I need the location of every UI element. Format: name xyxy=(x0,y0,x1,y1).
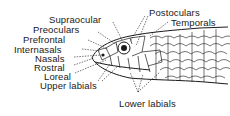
label-lower-labials: Lower labials xyxy=(119,99,176,109)
snake-head-diagram: Supraocular Preoculars Prefrontal Intern… xyxy=(0,0,230,116)
label-temporals: Temporals xyxy=(171,18,216,28)
label-upper-labials: Upper labials xyxy=(40,81,97,91)
